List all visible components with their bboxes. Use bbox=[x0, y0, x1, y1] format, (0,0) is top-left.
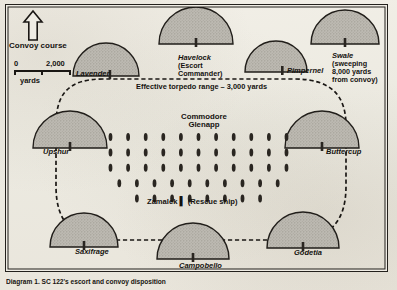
escort-label-swale-line4: from convoy) bbox=[332, 76, 378, 84]
commodore-ship: Glenapp bbox=[172, 121, 236, 129]
escort-label-upshur: Upshur bbox=[43, 148, 69, 156]
escort-label-godetia: Godetia bbox=[294, 249, 322, 257]
escort-label-havelock-line3: Commander) bbox=[178, 70, 222, 78]
escort-label-lavender: Lavender bbox=[76, 70, 109, 78]
escort-label-campobello: Campobello bbox=[179, 262, 222, 270]
scale-zero-label: 0 bbox=[14, 60, 18, 68]
convoy-course-label: Convoy course bbox=[9, 42, 67, 51]
escort-label-pimpernel: Pimpernel bbox=[287, 67, 323, 75]
rescue-ship-label: Zamalek ▌ (Rescue ship) bbox=[147, 197, 237, 206]
scale-units-label: yards bbox=[20, 77, 40, 85]
figure-caption: Diagram 1. SC 122's escort and convoy di… bbox=[6, 278, 306, 288]
escort-label-buttercup: Buttercup bbox=[326, 148, 361, 156]
torpedo-range-label: Effective torpedo range – 3,000 yards bbox=[136, 83, 267, 91]
commodore-label: Commodore Glenapp bbox=[172, 113, 236, 130]
scale-bar bbox=[14, 70, 71, 75]
escort-label-havelock: Havelock (Escort Commander) bbox=[178, 54, 222, 78]
scale-max-label: 2,000 bbox=[46, 60, 65, 68]
rescue-ship-marker-icon: ▌ bbox=[180, 196, 186, 206]
escort-label-saxifrage: Saxifrage bbox=[75, 248, 109, 256]
escort-label-swale: Swale (sweeping 8,000 yards from convoy) bbox=[332, 52, 378, 83]
rescue-ship-name: Zamalek bbox=[147, 197, 177, 206]
rescue-ship-role: (Rescue ship) bbox=[188, 197, 238, 206]
